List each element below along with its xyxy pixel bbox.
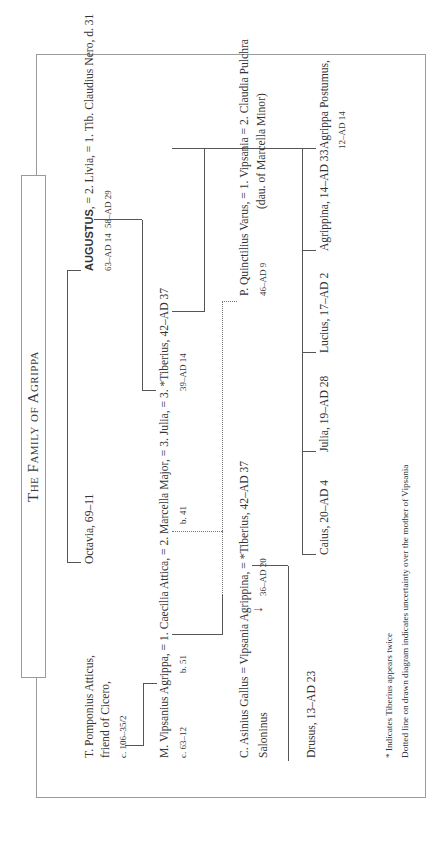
marcella-dotted-h (222, 532, 223, 595)
atticus-connector-h (143, 684, 144, 746)
child-postumus: Agrippa Postumus, (318, 60, 331, 149)
atticus-name: T. Pomponius Atticus, (83, 655, 96, 758)
footnote-tiberius: * Indicates Tiberius appears twice (383, 633, 396, 758)
title-box: The Family of Agrippa (21, 175, 46, 678)
marcella-dotted-v (172, 531, 222, 532)
family-tree-diagram: The Family of Agrippa T. Pomponius Attic… (0, 0, 448, 841)
diagram-title: The Family of Agrippa (25, 351, 42, 502)
marcella-dates: b. 41 (177, 506, 190, 524)
livia-dates: 58–AD 29 (102, 190, 115, 228)
agrippa-marriages: M. Vipsanius Agrippa, = 1. Caecilia Atti… (158, 288, 171, 758)
pulchra-note: (dau. of Marcella Minor) (255, 93, 268, 209)
augustus-dates: 63–AD 14 (102, 233, 115, 271)
footnote-dotted-line: Dotted line on drawn diagram indicates u… (399, 465, 412, 758)
child-tick-agrippina (302, 250, 316, 251)
tiberius-drusus-v (252, 565, 288, 566)
drusus: Drusus, 13–AD 23 (305, 671, 318, 758)
julia-dates: 39–AD 14 (177, 353, 190, 391)
arrow-down-icon: ↓ (250, 606, 266, 613)
child-tick-lucius (302, 352, 316, 353)
agrippa-dates: c. 63–12 (177, 727, 190, 758)
attica-vipsania-h (222, 595, 223, 635)
vipsania-dates: 36–AD 20 (257, 558, 270, 596)
octavia-parent-bar (67, 271, 68, 563)
varus-dotted-h (222, 302, 223, 532)
tiberius-julia-v (172, 311, 204, 312)
child-tick-julia (302, 451, 316, 452)
varus-dates: 46–AD 9 (257, 263, 270, 296)
augustus-line: AUGUSTUS, = 2. Livia, = 1. Tib. Claudius… (83, 14, 96, 271)
atticus-connector (125, 745, 143, 746)
atticus-dates: c. 106–35/2 (117, 716, 130, 759)
varus-dotted-v (222, 301, 237, 302)
livia-connector-h (142, 220, 143, 391)
child-julia: Julia, 19–AD 28 (318, 376, 331, 452)
julia-tick (142, 390, 156, 391)
drusus-tick (288, 566, 289, 761)
octavia: Octavia, 69–11 (83, 494, 96, 564)
atticus-line2: friend of Cicero, (99, 681, 112, 758)
child-tick-postumus (302, 148, 316, 149)
child-postumus-dates: 12–AD 14 (336, 111, 349, 149)
octavia-tick (67, 562, 81, 563)
augustus-tick (67, 270, 81, 271)
child-lucius: Lucius, 17–AD 2 (318, 273, 331, 353)
attica-dates: b. 51 (177, 655, 190, 673)
agrippa-attica-v (172, 634, 222, 635)
varus-marriages: P. Quinctilius Varus, = 1. Vipsania = 2.… (238, 39, 251, 296)
child-caius: Caius, 20–AD 4 (318, 480, 331, 555)
augustus-marriages: , = 2. Livia, = 1. Tib. Claudius Nero, d… (83, 14, 96, 210)
tiberius-julia-h (204, 149, 205, 312)
atticus-connector-v2 (143, 683, 157, 684)
child-tick-caius (302, 554, 316, 555)
gallus-line2: Saloninus (257, 712, 270, 758)
child-agrippina: Agrippina, 14–AD 33 (318, 150, 331, 251)
julia-children-v (172, 148, 302, 149)
livia-connector-v (94, 219, 142, 220)
